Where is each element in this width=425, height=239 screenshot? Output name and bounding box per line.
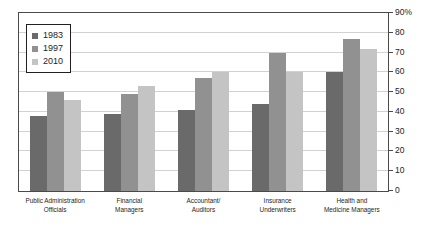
- x-axis-label-line: Public Administration: [18, 196, 92, 205]
- y-axis: 90%80706050403020100: [389, 0, 425, 204]
- bar-2010: [286, 72, 303, 191]
- x-axis-label-line: Officials: [18, 205, 92, 214]
- y-tick-label: 40: [395, 107, 404, 116]
- plot-area: [18, 12, 389, 192]
- x-axis-label-line: Financial: [92, 196, 166, 205]
- x-axis-label-line: Health and: [315, 196, 389, 205]
- y-tick-mark: [389, 32, 393, 33]
- x-axis-label-line: Underwriters: [241, 205, 315, 214]
- legend-swatch-icon: [32, 33, 38, 39]
- bar-2010: [360, 49, 377, 191]
- legend-label: 1997: [43, 44, 63, 53]
- bar-2010: [212, 72, 229, 191]
- x-axis-label-line: Medicine Managers: [315, 205, 389, 214]
- x-axis-label: Public AdministrationOfficials: [18, 196, 92, 230]
- bar-1983: [252, 104, 269, 191]
- bar-1997: [269, 53, 286, 191]
- chart-legend: 198319972010: [26, 24, 71, 73]
- bar-2010: [138, 86, 155, 191]
- bar-group: [178, 13, 229, 191]
- x-axis-label-line: Insurance: [241, 196, 315, 205]
- y-tick-label: 20: [395, 146, 404, 155]
- bar-1997: [47, 92, 64, 191]
- y-tick-label: 10: [395, 166, 404, 175]
- legend-label: 1983: [43, 31, 63, 40]
- y-tick-mark: [389, 12, 393, 13]
- y-tick-mark: [389, 111, 393, 112]
- bar-group: [252, 13, 303, 191]
- legend-item: 1983: [32, 29, 63, 42]
- legend-item: 2010: [32, 55, 63, 68]
- y-tick-mark: [389, 52, 393, 53]
- bar-1983: [104, 114, 121, 191]
- bar-1997: [343, 39, 360, 191]
- y-tick-mark: [389, 150, 393, 151]
- bar-group: [104, 13, 155, 191]
- bar-chart: 90%80706050403020100 Public Administrati…: [0, 0, 425, 239]
- bar-1997: [195, 78, 212, 191]
- x-axis-label: FinancialManagers: [92, 196, 166, 230]
- bar-1997: [121, 94, 138, 191]
- bar-2010: [64, 100, 81, 191]
- bar-group: [326, 13, 377, 191]
- x-axis-label-line: Auditors: [166, 205, 240, 214]
- bars-layer: [19, 13, 388, 191]
- legend-swatch-icon: [32, 46, 38, 52]
- legend-label: 2010: [43, 57, 63, 66]
- legend-swatch-icon: [32, 59, 38, 65]
- x-axis-labels: Public AdministrationOfficialsFinancialM…: [18, 196, 389, 230]
- x-axis-label: InsuranceUnderwriters: [241, 196, 315, 230]
- y-tick-label: 70: [395, 48, 404, 57]
- x-axis-label: Accountant/Auditors: [166, 196, 240, 230]
- x-axis-label-line: Accountant/: [166, 196, 240, 205]
- y-tick-mark: [389, 170, 393, 171]
- x-axis-label-line: Managers: [92, 205, 166, 214]
- legend-item: 1997: [32, 42, 63, 55]
- y-tick-label: 30: [395, 127, 404, 136]
- y-tick-label: 50: [395, 87, 404, 96]
- y-tick-label: 60: [395, 67, 404, 76]
- y-tick-mark: [389, 190, 393, 191]
- y-tick-mark: [389, 131, 393, 132]
- y-tick-label: 90%: [395, 8, 412, 17]
- y-tick-mark: [389, 91, 393, 92]
- x-axis-label: Health andMedicine Managers: [315, 196, 389, 230]
- bar-1983: [30, 116, 47, 191]
- y-tick-mark: [389, 71, 393, 72]
- y-tick-label: 0: [395, 186, 400, 195]
- y-tick-label: 80: [395, 28, 404, 37]
- bar-1983: [326, 72, 343, 191]
- bar-1983: [178, 110, 195, 191]
